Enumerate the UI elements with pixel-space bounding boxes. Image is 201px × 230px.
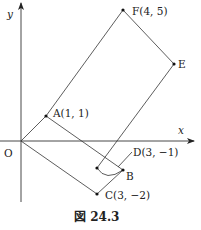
- point-E: [172, 62, 175, 65]
- label-F: F(4, 5): [132, 5, 168, 17]
- point-A: [44, 114, 47, 117]
- segment-AF: [46, 10, 123, 116]
- label-C: C(3, −2): [105, 189, 150, 201]
- point-B: [121, 168, 124, 171]
- point-C: [95, 192, 98, 195]
- d-label-leader: [118, 152, 132, 167]
- label-E: E: [178, 58, 186, 70]
- segment-FE: [123, 10, 174, 64]
- segment-OA: [21, 116, 46, 141]
- label-D: D(3, −1): [133, 146, 178, 158]
- point-D: [95, 166, 98, 169]
- segment-AB: [46, 116, 123, 170]
- segment-OC: [21, 141, 97, 194]
- y-axis-label: y: [6, 8, 14, 20]
- figure-caption: 図 24.3: [74, 210, 119, 224]
- x-axis-label: x: [178, 124, 184, 136]
- label-B: B: [126, 170, 134, 182]
- origin-label: O: [4, 147, 13, 159]
- arc-DB: [97, 168, 123, 176]
- label-A: A(1, 1): [52, 107, 89, 119]
- point-F: [121, 8, 124, 11]
- coordinate-diagram: x y O A(1, 1) F(4, 5) E D(3, −1) B C(3, …: [0, 0, 201, 230]
